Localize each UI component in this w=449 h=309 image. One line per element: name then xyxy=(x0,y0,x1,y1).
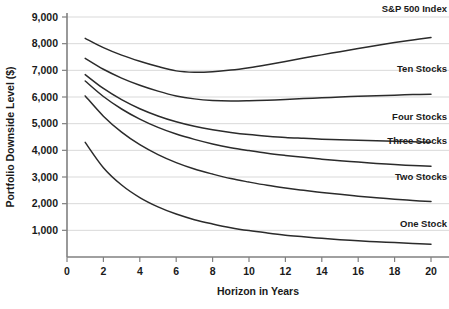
series-lines xyxy=(85,38,431,245)
series-labels: S&P 500 IndexTen StocksFour StocksThree … xyxy=(382,3,448,230)
y-axis-ticks: 1,0002,0003,0004,0005,0006,0007,0008,000… xyxy=(32,11,67,236)
series-line xyxy=(85,142,431,244)
series-label-two-stocks: Two Stocks xyxy=(395,171,447,182)
y-tick-label: 8,000 xyxy=(32,37,58,49)
series-label-one-stock: One Stock xyxy=(400,218,448,229)
y-tick-label: 6,000 xyxy=(32,91,58,103)
x-tick-label: 20 xyxy=(425,265,437,277)
x-tick-label: 16 xyxy=(352,265,364,277)
series-label-ten-stocks: Ten Stocks xyxy=(397,63,447,74)
line-chart: 1,0002,0003,0004,0005,0006,0007,0008,000… xyxy=(0,0,449,309)
y-tick-label: 9,000 xyxy=(32,11,58,23)
series-line xyxy=(85,58,431,101)
series-label-four-stocks: Four Stocks xyxy=(392,111,447,122)
x-tick-label: 2 xyxy=(100,265,106,277)
x-tick-label: 10 xyxy=(243,265,255,277)
y-tick-label: 1,000 xyxy=(32,224,58,236)
series-label-s-p-500-index: S&P 500 Index xyxy=(382,3,448,14)
y-tick-label: 4,000 xyxy=(32,144,58,156)
y-axis-title: Portfolio Downside Level ($) xyxy=(4,66,16,207)
x-axis-ticks: 02468101214161820 xyxy=(64,257,437,277)
x-axis-title: Horizon in Years xyxy=(217,285,299,297)
y-tick-label: 7,000 xyxy=(32,64,58,76)
series-line xyxy=(85,96,431,202)
x-tick-label: 14 xyxy=(316,265,328,277)
y-tick-label: 2,000 xyxy=(32,197,58,209)
x-tick-label: 6 xyxy=(173,265,179,277)
x-tick-label: 18 xyxy=(389,265,401,277)
y-tick-label: 5,000 xyxy=(32,117,58,129)
x-tick-label: 8 xyxy=(210,265,216,277)
chart-container: 1,0002,0003,0004,0005,0006,0007,0008,000… xyxy=(0,0,449,309)
x-tick-label: 4 xyxy=(137,265,143,277)
series-label-three-stocks: Three Stocks xyxy=(387,135,447,146)
y-tick-label: 3,000 xyxy=(32,171,58,183)
x-tick-label: 12 xyxy=(280,265,292,277)
x-tick-label: 0 xyxy=(64,265,70,277)
series-line xyxy=(85,38,431,73)
